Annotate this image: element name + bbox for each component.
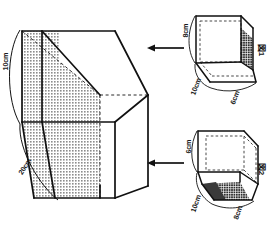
arrow-fig1 <box>146 40 186 56</box>
fig2-drawing <box>188 122 268 227</box>
fig1-height-label: 8cm <box>182 24 189 38</box>
main-height-label: 10cm <box>2 53 9 71</box>
main-solid-drawing <box>0 0 160 230</box>
fig1-caption: 図1 <box>257 44 265 56</box>
arrow-fig2 <box>146 155 186 171</box>
figure-canvas: 10cm 20cm <box>0 0 274 230</box>
fig1-drawing <box>188 6 268 111</box>
fig2-height-label: 6cm <box>185 140 192 154</box>
fig2-caption: 図2 <box>257 163 265 175</box>
fig2-hidden-edges <box>206 136 256 182</box>
